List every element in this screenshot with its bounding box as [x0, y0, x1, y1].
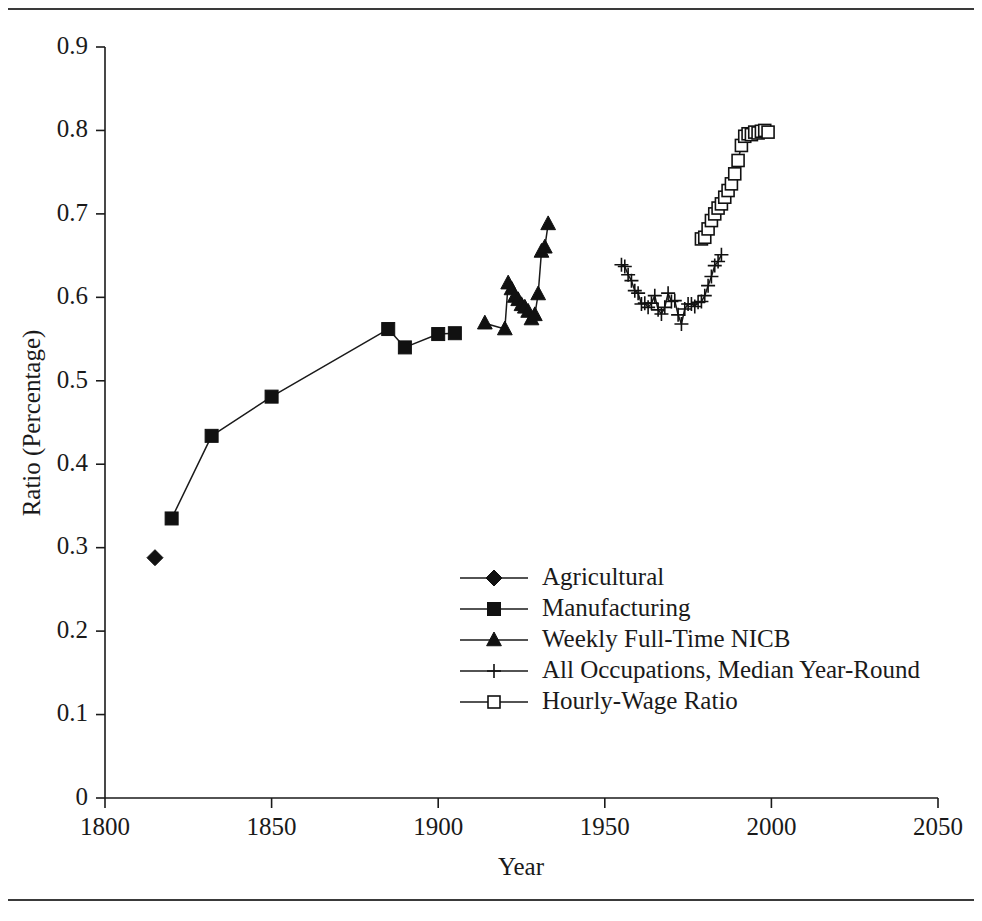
y-tick-label: 0.1 [57, 699, 88, 726]
x-tick-label: 2000 [746, 813, 796, 840]
y-tick-label: 0.9 [57, 32, 88, 59]
legend-marker-filled-diamond [486, 570, 502, 586]
data-point-marker [398, 341, 411, 354]
data-point-marker [634, 297, 648, 311]
legend-marker-filled-square [488, 603, 501, 616]
series-polyline [172, 329, 455, 518]
legend-label: Agricultural [542, 563, 664, 590]
x-tick-label: 1850 [247, 813, 297, 840]
data-point-marker [628, 284, 642, 298]
y-tick-label: 0.4 [57, 449, 89, 476]
series-weekly-full-time-nicb [477, 216, 555, 335]
data-point-marker [732, 154, 744, 166]
x-tick-label: 1900 [413, 813, 463, 840]
series-all-occupations-median-year-round [614, 248, 728, 331]
data-point-marker [477, 315, 492, 329]
line-chart-figure: 00.10.20.30.40.50.60.70.80.9 18001850190… [0, 0, 982, 921]
legend-item-all-occupations-median-year-round: All Occupations, Median Year-Round [460, 656, 920, 683]
data-point-marker [762, 126, 774, 138]
y-axis-title: Ratio (Percentage) [18, 330, 46, 517]
series-agricultural [147, 550, 163, 566]
data-point-marker [541, 216, 556, 230]
legend-item-hourly-wage-ratio: Hourly-Wage Ratio [460, 687, 738, 714]
data-point-marker [205, 429, 218, 442]
data-point-marker [448, 327, 461, 340]
y-tick-label: 0.3 [57, 532, 88, 559]
series-manufacturing [165, 323, 461, 525]
x-tick-label: 2050 [913, 813, 963, 840]
data-point-marker [729, 168, 741, 180]
data-point-marker [701, 279, 715, 293]
x-tick-label: 1800 [80, 813, 130, 840]
data-point-marker [624, 274, 638, 288]
x-axis-ticks: 180018501900195020002050 [80, 798, 963, 840]
data-point-marker [265, 390, 278, 403]
data-point-marker [714, 248, 728, 262]
data-point-marker [621, 268, 635, 282]
legend-label: Hourly-Wage Ratio [542, 687, 738, 714]
data-point-marker [674, 317, 688, 331]
data-point-marker [165, 512, 178, 525]
y-axis-ticks: 00.10.20.30.40.50.60.70.80.9 [57, 32, 105, 810]
data-point-marker [147, 550, 163, 566]
legend-marker-open-square [488, 696, 500, 708]
data-series-group [147, 124, 774, 565]
x-tick-label: 1950 [580, 813, 630, 840]
y-tick-label: 0.8 [57, 115, 88, 142]
series-hourly-wage-ratio [695, 124, 774, 244]
data-point-marker [382, 323, 395, 336]
data-point-marker [531, 286, 546, 300]
legend-label: Manufacturing [542, 594, 691, 621]
data-point-marker [618, 259, 632, 273]
data-point-marker [648, 289, 662, 303]
chart-legend: AgriculturalManufacturingWeekly Full-Tim… [460, 563, 920, 714]
legend-label: Weekly Full-Time NICB [542, 625, 790, 652]
y-tick-label: 0.5 [57, 366, 88, 393]
y-tick-label: 0.7 [57, 199, 88, 226]
data-point-marker [704, 269, 718, 283]
legend-item-manufacturing: Manufacturing [460, 594, 691, 621]
legend-item-agricultural: Agricultural [460, 563, 664, 590]
legend-item-weekly-full-time-nicb: Weekly Full-Time NICB [460, 625, 790, 652]
data-point-marker [698, 289, 712, 303]
y-tick-label: 0.2 [57, 616, 88, 643]
legend-marker-plus [487, 664, 501, 678]
x-axis-title: Year [498, 853, 545, 880]
series-polyline [621, 255, 721, 324]
data-point-marker [661, 286, 675, 300]
data-point-marker [432, 328, 445, 341]
legend-label: All Occupations, Median Year-Round [542, 656, 920, 683]
legend-marker-filled-triangle [487, 632, 502, 646]
chart-svg: 00.10.20.30.40.50.60.70.80.9 18001850190… [0, 0, 982, 921]
y-tick-label: 0 [76, 783, 89, 810]
y-tick-label: 0.6 [57, 282, 88, 309]
